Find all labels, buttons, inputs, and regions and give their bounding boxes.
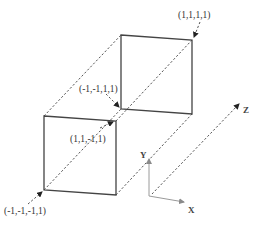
pointer-1111-icon xyxy=(194,22,200,37)
pointer-1-1-neg-1-icon xyxy=(100,122,113,128)
back-square xyxy=(121,35,192,114)
z-axis-label: Z xyxy=(243,105,249,115)
pointer-neg-neg-neg-1-icon xyxy=(28,192,42,204)
hypercube-diagram: (1,1,1,1) (-1,-1,1,1) (1,1,-1,1) (-1,-1,… xyxy=(0,0,254,227)
label-neg1-neg1-1-1: (-1,-1,1,1) xyxy=(79,84,118,95)
x-axis-label: X xyxy=(188,205,195,215)
x-axis-arrow-icon xyxy=(149,196,184,202)
y-axis-label: Y xyxy=(140,150,147,160)
connecting-edges xyxy=(44,35,192,195)
front-square xyxy=(44,116,116,195)
edge-top-left xyxy=(44,35,121,116)
label-1111: (1,1,1,1) xyxy=(178,10,210,21)
axes: Y X Z xyxy=(140,104,249,215)
pointer-neg-neg-1-1-icon xyxy=(106,94,119,107)
label-neg1-neg1-neg1-1: (-1,-1,-1,1) xyxy=(4,206,46,217)
edge-bottom-right xyxy=(116,114,192,195)
z-axis-arrow-icon xyxy=(152,104,239,194)
label-1-1-neg1-1: (1,1,-1,1) xyxy=(70,134,106,145)
